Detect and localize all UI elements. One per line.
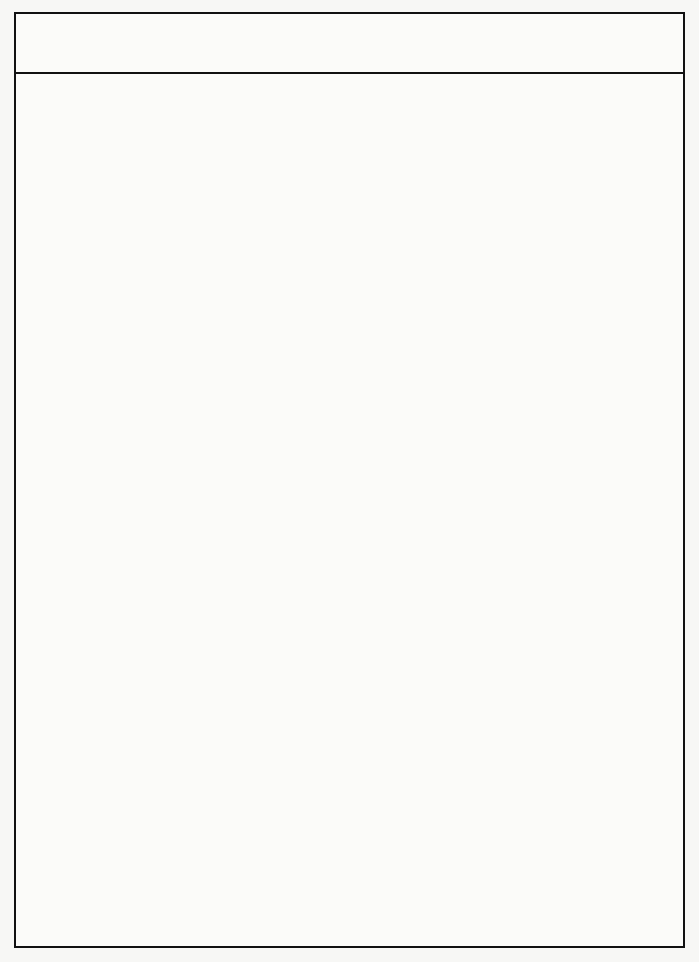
- chart-frame: [14, 12, 685, 948]
- chart-page: [0, 0, 699, 962]
- x-axis-tick-labels: [16, 44, 683, 70]
- plot-grid-area: [16, 74, 683, 946]
